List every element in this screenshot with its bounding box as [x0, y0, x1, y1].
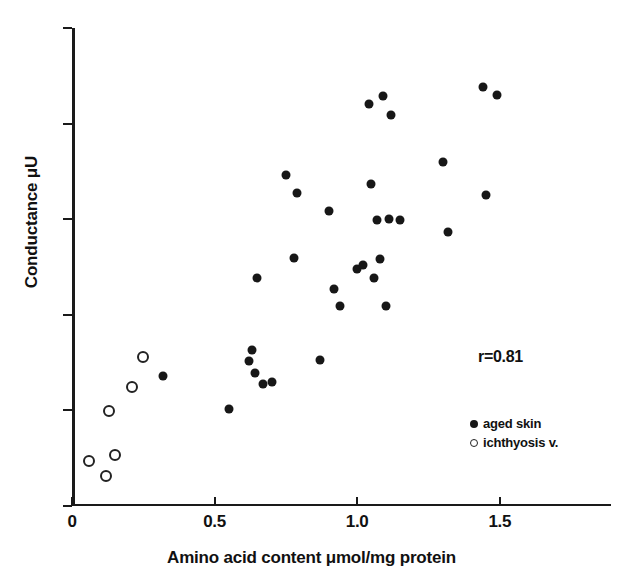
data-point [103, 405, 115, 417]
y-tick-mark [63, 27, 72, 29]
data-point [244, 356, 253, 365]
x-tick-mark [356, 497, 358, 506]
data-point [316, 355, 325, 364]
data-point [253, 273, 262, 282]
y-axis-line [72, 28, 75, 506]
data-point [336, 302, 345, 311]
data-point [137, 351, 149, 363]
data-point [438, 157, 447, 166]
filled-circle-icon [470, 420, 478, 428]
data-point [247, 346, 256, 355]
data-point [281, 171, 290, 180]
data-point [126, 381, 138, 393]
y-tick-mark [63, 123, 72, 125]
data-point [376, 255, 385, 264]
data-point [370, 274, 379, 283]
x-tick-mark [71, 497, 73, 506]
data-point [481, 191, 490, 200]
data-point [364, 99, 373, 108]
data-point [290, 254, 299, 263]
legend-item-label: ichthyosis v. [483, 433, 558, 452]
data-point [330, 284, 339, 293]
data-point [387, 110, 396, 119]
data-point [293, 189, 302, 198]
data-point [395, 216, 404, 225]
x-axis-title: Amino acid content μmol/mg protein [0, 548, 623, 568]
legend-item: ichthyosis v. [470, 433, 558, 452]
x-axis-line [72, 504, 611, 507]
open-circle-icon [470, 439, 478, 447]
x-tick-mark [214, 497, 216, 506]
x-tick-mark [499, 497, 501, 506]
scatter-plot-figure: 01020304050 00.51.01.5 Conductance μU Am… [0, 0, 623, 586]
x-tick-label: 0 [42, 512, 102, 532]
y-tick-mark [63, 314, 72, 316]
data-point [358, 261, 367, 270]
correlation-annotation: r=0.81 [478, 348, 523, 366]
y-tick-mark [63, 218, 72, 220]
x-tick-label: 1.0 [327, 512, 387, 532]
data-point [100, 470, 112, 482]
legend-item: aged skin [470, 414, 558, 433]
data-point [367, 179, 376, 188]
legend: aged skinichthyosis v. [470, 414, 558, 452]
data-point [378, 91, 387, 100]
legend-item-label: aged skin [483, 414, 541, 433]
x-tick-label: 0.5 [185, 512, 245, 532]
data-point [159, 371, 168, 380]
data-point [373, 216, 382, 225]
data-point [250, 369, 259, 378]
y-axis-title: Conductance μU [22, 72, 42, 372]
data-point [444, 227, 453, 236]
data-point [224, 405, 233, 414]
y-tick-mark [63, 409, 72, 411]
data-point [109, 449, 121, 461]
data-point [492, 90, 501, 99]
data-point [324, 206, 333, 215]
data-point [83, 455, 95, 467]
data-point [384, 215, 393, 224]
data-point [478, 83, 487, 92]
data-point [267, 377, 276, 386]
x-tick-label: 1.5 [470, 512, 530, 532]
data-point [381, 302, 390, 311]
